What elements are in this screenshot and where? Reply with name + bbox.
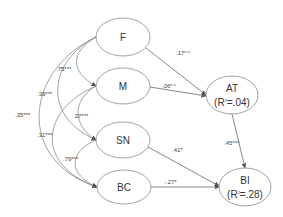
node-at: AT (R2=.04) [206, 76, 258, 114]
corr-label-m-bc: .31*** [37, 132, 53, 138]
node-label-bi: BI [240, 175, 249, 186]
node-label-m: M [119, 81, 127, 92]
corr-arc-f-bc [39, 37, 97, 187]
node-label-bc: BC [117, 182, 131, 193]
node-r2-at: (R2=.04) [214, 97, 250, 108]
corr-label-f-m: .75*** [56, 66, 72, 72]
node-sn: SN [96, 122, 150, 158]
node-label-at: AT [226, 83, 238, 94]
node-r2-bi: (R2=.28) [227, 189, 263, 200]
path-label-sn-bi: .41* [172, 147, 183, 153]
corr-arc-f-m [77, 37, 97, 86]
path-label-m-at: .06n.s. [162, 82, 177, 89]
path-label-f-at: .17n.s. [176, 49, 191, 56]
node-bc: BC [97, 170, 151, 204]
path-label-at-bi: .45*** [224, 140, 240, 146]
node-f: F [96, 18, 150, 56]
corr-label-f-sn: .39*** [37, 91, 53, 97]
path-label-bc-bi: -.27* [164, 179, 177, 185]
corr-label-sn-bc: .79*** [63, 156, 79, 162]
path-arrows [146, 48, 245, 187]
node-m: M [96, 68, 150, 104]
correlation-arcs [39, 37, 97, 187]
node-label-f: F [120, 32, 126, 43]
path-model-diagram: F M SN BC AT (R2=.04) BI (R2=.28) .17n.s… [0, 0, 283, 217]
path-sn-bi [148, 147, 219, 186]
node-label-sn: SN [116, 135, 130, 146]
corr-arc-sn-bc [75, 140, 97, 187]
node-bi: BI (R2=.28) [219, 168, 271, 206]
corr-label-m-sn: .27*** [73, 113, 89, 119]
corr-label-f-bc: .35*** [15, 112, 31, 118]
